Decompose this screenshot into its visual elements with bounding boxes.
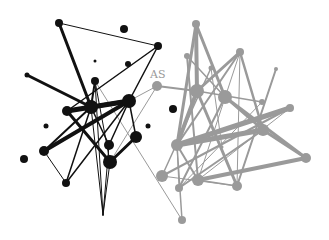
graph-node [257, 124, 269, 136]
node-label: AS [149, 68, 165, 81]
graph-node [55, 19, 63, 27]
graph-node [232, 181, 242, 191]
graph-node [175, 184, 183, 192]
graph-node [221, 146, 224, 149]
graph-node [104, 140, 114, 150]
graph-labels: AS [149, 68, 165, 81]
graph-node [103, 215, 104, 216]
graph-edge [196, 24, 197, 91]
graph-node [62, 179, 70, 187]
graph-node [120, 25, 128, 33]
graph-node [20, 155, 28, 163]
graph-node [146, 124, 151, 129]
graph-node [190, 84, 204, 98]
graph-edge [66, 101, 129, 183]
graph-node [91, 77, 99, 85]
graph-node [274, 67, 278, 71]
graph-edges [27, 23, 306, 220]
graph-edge [237, 52, 240, 186]
graph-node [236, 48, 244, 56]
graph-node [25, 73, 30, 78]
graph-node [209, 66, 214, 71]
graph-node [94, 60, 97, 63]
graph-node [156, 170, 168, 182]
graph-node [192, 174, 204, 186]
graph-node [62, 106, 72, 116]
graph-node [44, 124, 49, 129]
graph-node [103, 155, 117, 169]
graph-node [301, 153, 311, 163]
graph-node [122, 94, 136, 108]
graph-node [178, 216, 186, 224]
graph-node [84, 100, 98, 114]
graph-node [184, 53, 190, 59]
graph-edge [44, 151, 66, 183]
graph-edge [59, 23, 158, 46]
graph-node [259, 99, 265, 105]
graph-edge [263, 130, 306, 158]
graph-node [39, 146, 49, 156]
graph-node [218, 90, 232, 104]
graph-node [171, 139, 183, 151]
graph-edge [91, 107, 103, 215]
graph-node [169, 105, 177, 113]
graph-node [152, 81, 162, 91]
graph-edge [198, 158, 306, 180]
graph-node [286, 104, 294, 112]
graph-node [130, 131, 142, 143]
graph-node [192, 20, 200, 28]
network-graph: AS [0, 0, 329, 240]
graph-node [154, 42, 162, 50]
graph-node [125, 61, 131, 67]
